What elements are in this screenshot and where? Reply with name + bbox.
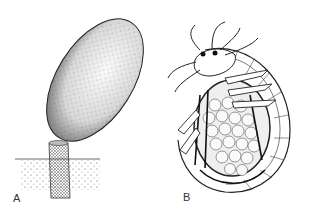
- scientific-illustration: A: [0, 0, 314, 218]
- panel-label-b: B: [183, 191, 190, 203]
- panel-label-a: A: [13, 192, 21, 204]
- egg-capsule: [27, 2, 164, 158]
- stalk: [49, 141, 70, 199]
- panel-b-drawing: [168, 22, 290, 192]
- panel-a-drawing: [15, 2, 163, 198]
- eye-icon: [201, 52, 206, 57]
